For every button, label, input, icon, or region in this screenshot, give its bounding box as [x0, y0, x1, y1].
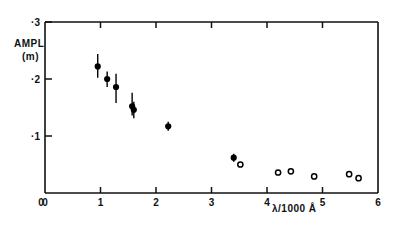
- data-point-filled: [231, 155, 237, 161]
- data-point-open: [288, 169, 293, 174]
- open-data-markers: [238, 162, 361, 181]
- x-tick-label: 2: [153, 197, 159, 208]
- y-axis-ticks: [45, 22, 52, 136]
- data-point-filled: [104, 76, 110, 82]
- x-axis-title: λ/1000 Å: [272, 203, 317, 214]
- error-bars: [98, 54, 234, 162]
- plot-canvas: 0123456 ·1·2·30: [0, 0, 399, 228]
- axes-frame: [45, 22, 378, 193]
- x-axis-tick-labels: 0123456: [42, 197, 381, 208]
- data-point-open: [238, 162, 243, 167]
- data-point-filled: [95, 63, 101, 69]
- amplitude-vs-wavelength-figure: AMPL (m) λ/1000 Å 0123456 ·1·2·30: [0, 0, 399, 228]
- data-point-open: [276, 170, 281, 175]
- x-tick-label: 4: [264, 197, 270, 208]
- y-tick-label: ·3: [31, 17, 40, 28]
- data-point-open: [356, 176, 361, 181]
- data-point-filled: [165, 123, 171, 129]
- y-axis-title-line2: (m): [22, 51, 39, 62]
- y-axis-title-line1: AMPL: [14, 38, 44, 49]
- data-point-filled: [131, 107, 137, 113]
- y-tick-label: ·1: [31, 131, 40, 142]
- x-tick-label: 6: [375, 197, 381, 208]
- y-tick-label: ·2: [31, 74, 40, 85]
- x-tick-label: 5: [320, 197, 326, 208]
- x-tick-label: 3: [209, 197, 215, 208]
- data-point-filled: [113, 84, 119, 90]
- x-tick-label: 1: [98, 197, 104, 208]
- data-point-open: [312, 174, 317, 179]
- origin-label: 0: [38, 197, 44, 208]
- data-point-open: [347, 172, 352, 177]
